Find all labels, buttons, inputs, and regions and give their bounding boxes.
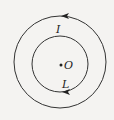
inner-loop-label: L	[61, 78, 69, 91]
concentric-circles-diagram: O I L	[0, 0, 114, 120]
outer-arrow-icon	[61, 13, 69, 19]
center-label: O	[64, 59, 73, 72]
center-point	[60, 64, 63, 67]
outer-current-label: I	[55, 23, 61, 36]
diagram-canvas: O I L	[0, 0, 114, 120]
